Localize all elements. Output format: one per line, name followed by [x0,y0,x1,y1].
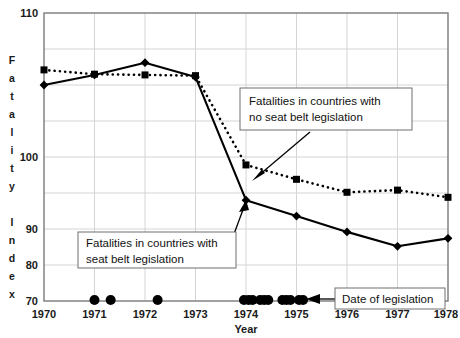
y-tick-70: 70 [26,295,38,307]
legislation-date-dot [90,295,100,305]
y-axis-letter: x [9,288,15,300]
annot-no-legislation-line1: Fatalities in countries with [249,95,381,107]
data-point [142,71,149,78]
legislation-date-dot [153,295,163,305]
legislation-date-dot [263,295,273,305]
data-point [394,187,401,194]
x-tick-1978: 1978 [434,308,458,320]
y-axis-letter: I [11,216,14,228]
annot-legislation-line1: Fatalities in countries with [86,237,218,249]
data-point [41,66,48,73]
legislation-date-dot [298,295,308,305]
y-tick-80: 80 [26,259,38,271]
y-axis-letter: a [9,72,15,84]
data-point [344,189,351,196]
y-axis-letter: l [11,126,14,138]
legislation-date-dot [106,295,116,305]
y-axis-letter: i [11,144,14,156]
y-axis-tick-labels: 110 100 90 80 70 [20,7,38,307]
data-point [445,194,452,201]
y-axis-letter: n [9,234,15,246]
x-tick-1971: 1971 [82,308,106,320]
x-tick-1977: 1977 [385,308,409,320]
y-axis-letter: y [9,180,15,192]
x-tick-1970: 1970 [32,308,56,320]
x-tick-1972: 1972 [133,308,157,320]
x-tick-1974: 1974 [234,308,259,320]
x-tick-1976: 1976 [335,308,359,320]
x-axis-tick-labels: 1970 1971 1972 1973 1974 1975 1976 1977 … [32,308,458,320]
annot-no-legislation-line2: no seat belt legislation [249,111,363,123]
x-axis-title: Year [234,323,258,335]
legislation-date-dot [285,295,295,305]
y-axis-letter: t [10,162,14,174]
annot-legislation-line2: seat belt legislation [86,253,184,265]
annot-date-legislation-line1: Date of legislation [342,293,433,305]
y-axis-letter: d [9,252,15,264]
data-point [243,161,250,168]
fatality-index-chart: 110 100 90 80 70 1970 1971 1972 1973 197… [0,0,460,338]
x-tick-1975: 1975 [284,308,308,320]
data-point [293,176,300,183]
y-axis-letter: t [10,90,14,102]
y-tick-110: 110 [20,7,38,19]
chart-canvas: 110 100 90 80 70 1970 1971 1972 1973 197… [0,0,460,338]
y-axis-letter: e [9,270,15,282]
y-axis-letter: F [9,54,16,66]
y-axis-title: F a t a l i t y I n d e x [9,54,16,300]
x-tick-1973: 1973 [183,308,207,320]
y-tick-90: 90 [26,223,38,235]
y-axis-letter: a [9,108,15,120]
y-tick-100: 100 [20,151,38,163]
